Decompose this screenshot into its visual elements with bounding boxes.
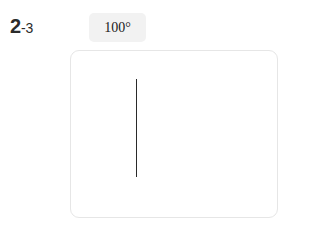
angle-value-text: 100° [104, 21, 131, 35]
vertical-ray-line[interactable] [136, 79, 137, 177]
figure-index-label: 2-3 [10, 16, 33, 36]
figure-index-minor: -3 [21, 21, 33, 35]
figure-index-major: 2 [10, 16, 21, 36]
drawing-canvas-card[interactable] [70, 50, 278, 218]
angle-value-chip[interactable]: 100° [89, 13, 146, 42]
figure-page: 2-3 100° [0, 0, 309, 227]
